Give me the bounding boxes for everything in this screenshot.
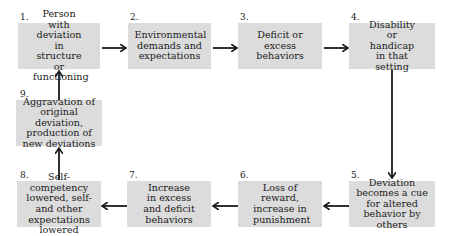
node-number-7: 7. — [129, 170, 138, 180]
node-number-1: 1. — [20, 12, 29, 22]
node-number-6: 6. — [240, 170, 249, 180]
node-label-9: Aggravation of original deviation, produ… — [19, 97, 99, 150]
node-number-4: 4. — [351, 12, 360, 22]
node-number-3: 3. — [240, 12, 249, 22]
node-label-1: Person with deviation in structure or fu… — [33, 9, 85, 83]
node-label-8: Self-competency lowered, self-and other … — [20, 172, 98, 236]
node-8-self-competency-lowered: Self-competency lowered, self-and other … — [17, 181, 101, 227]
node-2-environmental-demands: Environmental demands and expectations — [128, 23, 211, 69]
node-label-5: Deviation becomes a cue for altered beha… — [352, 178, 432, 231]
node-4-disability-handicap: Disability or handicap in that setting — [349, 23, 435, 69]
node-1-person-with-deviation: Person with deviation in structure or fu… — [18, 23, 100, 69]
node-label-7: Increase in excess and deficit behaviors — [143, 183, 195, 225]
node-number-2: 2. — [130, 12, 139, 22]
node-7-increase-excess-deficit: Increase in excess and deficit behaviors — [127, 181, 211, 227]
node-label-3: Deficit or excess behaviors — [254, 30, 306, 62]
node-6-loss-of-reward: Loss of reward, increase in punishment — [238, 181, 322, 227]
node-label-2: Environmental demands and expectations — [135, 30, 205, 62]
node-9-aggravation-of-deviation: Aggravation of original deviation, produ… — [16, 100, 102, 146]
node-label-6: Loss of reward, increase in punishment — [253, 183, 307, 225]
node-3-deficit-excess-behaviors: Deficit or excess behaviors — [238, 23, 322, 69]
node-5-deviation-cue: Deviation becomes a cue for altered beha… — [349, 181, 435, 227]
node-label-4: Disability or handicap in that setting — [364, 20, 420, 73]
